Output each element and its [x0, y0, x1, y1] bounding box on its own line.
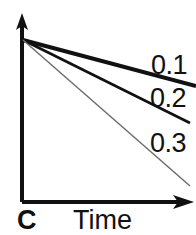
series-label-0-1: 0.1	[151, 52, 187, 79]
figure-canvas	[0, 0, 196, 235]
x-axis-label: Time	[73, 207, 132, 234]
y-axis-label: C	[17, 207, 37, 234]
series-label-0-2: 0.2	[150, 85, 186, 112]
concentration-vs-time-figure: 0.1 0.2 0.3 C Time	[0, 0, 196, 235]
series-label-0-3: 0.3	[150, 130, 186, 157]
